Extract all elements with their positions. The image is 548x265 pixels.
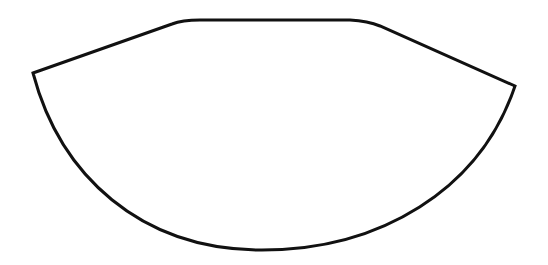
bowl-outline-shape: [33, 20, 515, 250]
diagram-canvas: [0, 0, 548, 265]
bowl-shape-svg: [0, 0, 548, 265]
